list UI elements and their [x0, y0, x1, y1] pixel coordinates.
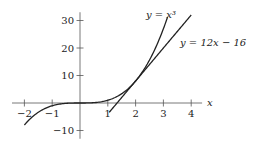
x-tick-label: 2	[132, 108, 138, 119]
x-tick-label: 3	[160, 108, 166, 119]
x-tick-label: −1	[45, 108, 60, 119]
tangent-line	[109, 15, 191, 112]
x-tick-label: −2	[17, 108, 32, 119]
x-tick-label: 4	[188, 108, 194, 119]
y-tick-label: 10	[61, 70, 74, 81]
x-axis-label: x	[207, 97, 213, 108]
curve-labels: y = x³y = 12x − 16	[145, 9, 247, 48]
label-cubic: y = x³	[145, 9, 176, 20]
y-tick-label: 20	[61, 43, 74, 54]
y-tick-label: −10	[53, 125, 74, 136]
y-tick-label: 30	[61, 15, 74, 26]
x-tick-label: 1	[105, 108, 111, 119]
label-tangent: y = 12x − 16	[179, 37, 247, 48]
chart: x −2−11234 302010−10 y = x³y = 12x − 16	[0, 0, 253, 143]
